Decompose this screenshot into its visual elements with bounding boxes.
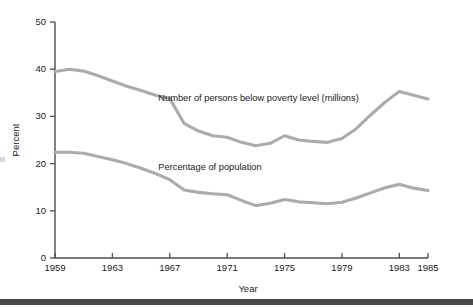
bottom-rule — [0, 299, 473, 305]
y-tick-label: 30 — [35, 110, 46, 121]
x-tick-label: 1975 — [274, 262, 295, 273]
x-axis-ticks: 19591963196719711975197919831985 — [44, 253, 438, 273]
y-axis-title: Percent — [10, 123, 21, 156]
x-tick-label: 1967 — [159, 262, 180, 273]
corner-speck — [0, 157, 5, 162]
series-annotation-2: Percentage of population — [158, 162, 261, 172]
y-tick-label: 10 — [35, 205, 46, 216]
x-tick-label: 1985 — [417, 262, 438, 273]
y-axis-ticks: 01020304050 — [35, 16, 55, 263]
series-group — [55, 69, 428, 205]
series-annotations: Number of persons below poverty level (m… — [158, 93, 358, 172]
x-tick-label: 1971 — [217, 262, 238, 273]
series-line-2 — [55, 152, 428, 205]
y-tick-label: 50 — [35, 16, 46, 27]
series-line-1 — [55, 69, 428, 145]
series-annotation-1: Number of persons below poverty level (m… — [158, 93, 358, 103]
y-tick-label: 40 — [35, 63, 46, 74]
x-tick-label: 1979 — [331, 262, 352, 273]
poverty-line-chart: 01020304050 1959196319671971197519791983… — [0, 0, 473, 308]
x-tick-label: 1959 — [44, 262, 65, 273]
x-tick-label: 1963 — [102, 262, 123, 273]
x-tick-label: 1983 — [389, 262, 410, 273]
y-tick-label: 20 — [35, 158, 46, 169]
x-axis-title: Year — [238, 283, 257, 294]
chart-svg: 01020304050 1959196319671971197519791983… — [0, 0, 473, 308]
